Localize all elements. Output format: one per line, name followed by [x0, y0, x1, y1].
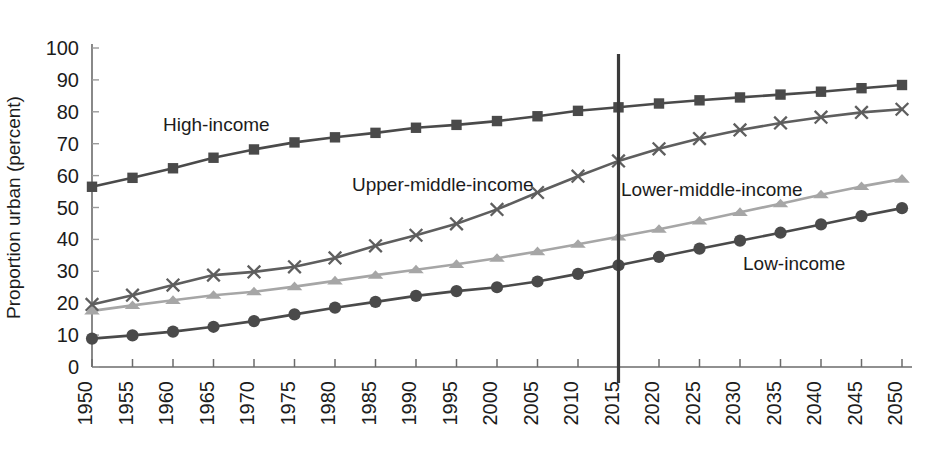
marker-circle: [369, 296, 381, 308]
marker-square: [208, 153, 218, 163]
x-tick-label: 2030: [722, 381, 744, 426]
y-tick-labels: 0102030405060708090100: [46, 37, 99, 378]
marker-square: [573, 106, 583, 116]
marker-circle: [531, 275, 543, 287]
marker-circle: [896, 202, 908, 214]
x-tick-label: 1965: [196, 381, 218, 426]
marker-square: [694, 95, 704, 105]
marker-circle: [653, 251, 665, 263]
marker-square: [451, 120, 461, 130]
y-tick-label: 20: [57, 292, 79, 314]
marker-square: [856, 83, 866, 93]
x-tick-label: 1955: [115, 381, 137, 426]
x-tick-label: 2045: [844, 381, 866, 426]
annotation-upper-middle-income: Upper-middle-income: [352, 174, 534, 195]
marker-circle: [572, 268, 584, 280]
x-tick-label: 2015: [601, 381, 623, 426]
x-tick-label: 1985: [358, 381, 380, 426]
marker-square: [87, 182, 97, 192]
x-tick-label: 1970: [236, 381, 258, 426]
x-tick-label: 1995: [439, 381, 461, 426]
y-tick-label: 70: [57, 133, 79, 155]
marker-circle: [491, 281, 503, 293]
marker-square: [735, 92, 745, 102]
y-tick-label: 90: [57, 69, 79, 91]
marker-square: [330, 132, 340, 142]
marker-circle: [450, 285, 462, 297]
series-path: [92, 85, 902, 187]
marker-square: [289, 137, 299, 147]
marker-circle: [288, 308, 300, 320]
marker-circle: [248, 315, 260, 327]
marker-circle: [693, 243, 705, 255]
y-tick-label: 60: [57, 165, 79, 187]
x-tick-label: 1980: [317, 381, 339, 426]
x-tick-label: 1960: [155, 381, 177, 426]
marker-circle: [410, 290, 422, 302]
marker-circle: [86, 333, 98, 345]
marker-circle: [329, 302, 341, 314]
x-tick-labels: 1950195519601965197019751980198519901995…: [74, 359, 906, 426]
y-tick-label: 0: [68, 356, 79, 378]
x-tick-label: 2005: [520, 381, 542, 426]
marker-square: [370, 128, 380, 138]
urbanization-line-chart: 0102030405060708090100 19501955196019651…: [0, 0, 936, 451]
marker-square: [532, 111, 542, 121]
marker-x: [572, 170, 585, 183]
chart-canvas: 0102030405060708090100 19501955196019651…: [0, 0, 936, 451]
y-axis-title: Proportion urban (percent): [3, 96, 24, 319]
annotation-lower-middle-income: Lower-middle-income: [621, 179, 803, 200]
y-axis-title-text: Proportion urban (percent): [3, 96, 24, 319]
marker-square: [492, 116, 502, 126]
x-tick-label: 1990: [398, 381, 420, 426]
y-tick-label: 10: [57, 324, 79, 346]
marker-circle: [734, 235, 746, 247]
x-tick-label: 2040: [803, 381, 825, 426]
y-tick-label: 100: [46, 37, 79, 59]
marker-circle: [207, 321, 219, 333]
marker-square: [249, 144, 259, 154]
x-tick-label: 2010: [560, 381, 582, 426]
marker-circle: [774, 227, 786, 239]
marker-circle: [167, 325, 179, 337]
x-tick-label: 2035: [763, 381, 785, 426]
marker-x: [491, 203, 504, 216]
marker-square: [897, 80, 907, 90]
x-tick-label: 1950: [74, 381, 96, 426]
marker-square: [816, 87, 826, 97]
y-tick-label: 30: [57, 260, 79, 282]
marker-circle: [855, 210, 867, 222]
x-tick-label: 1975: [277, 381, 299, 426]
marker-square: [775, 89, 785, 99]
marker-circle: [815, 218, 827, 230]
marker-circle: [126, 329, 138, 341]
x-tick-label: 2050: [884, 381, 906, 426]
annotation-low-income: Low-income: [743, 253, 845, 274]
x-tick-label: 2000: [479, 381, 501, 426]
annotation-high-income: High-income: [163, 114, 270, 135]
marker-square: [168, 163, 178, 173]
marker-square: [654, 98, 664, 108]
y-tick-label: 80: [57, 101, 79, 123]
marker-square: [411, 123, 421, 133]
x-tick-label: 2025: [682, 381, 704, 426]
series-annotations: High-incomeUpper-middle-incomeLower-midd…: [163, 114, 845, 274]
y-tick-label: 50: [57, 197, 79, 219]
marker-triangle: [894, 174, 910, 183]
x-tick-label: 2020: [641, 381, 663, 426]
y-tick-label: 40: [57, 228, 79, 250]
marker-square: [127, 173, 137, 183]
